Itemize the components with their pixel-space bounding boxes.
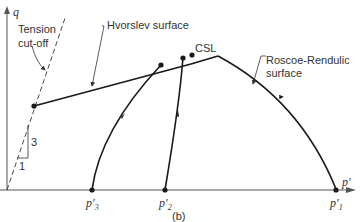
p-axis bbox=[0, 187, 356, 193]
tension-label-2: cut-off bbox=[18, 37, 49, 49]
critical-state-diagram: q p′ Tension cut-off Hvorslev surface CS… bbox=[0, 0, 361, 222]
slope-run-label: 1 bbox=[19, 160, 25, 172]
point-p3 bbox=[89, 187, 94, 192]
yield-point-p3 bbox=[158, 62, 163, 67]
slope-rise-label: 3 bbox=[31, 136, 37, 148]
tension-leader bbox=[32, 46, 45, 70]
p1-label: p′1 bbox=[329, 196, 343, 212]
hvorslev-start-point bbox=[31, 103, 36, 108]
csl-point bbox=[189, 52, 194, 57]
figure-caption: (b) bbox=[172, 210, 185, 222]
q-axis-label: q bbox=[13, 5, 19, 19]
stress-path-p3 bbox=[92, 65, 161, 190]
roscoe-label-2: surface bbox=[266, 67, 302, 79]
stress-path-p2 bbox=[165, 57, 183, 190]
p-axis-label: p′ bbox=[341, 175, 351, 189]
point-p1 bbox=[333, 187, 338, 192]
tension-label-1: Tension bbox=[18, 23, 56, 35]
point-p2 bbox=[162, 187, 167, 192]
csl-label: CSL bbox=[195, 42, 216, 54]
q-axis bbox=[4, 6, 10, 190]
p2-label: p′2 bbox=[158, 196, 172, 212]
yield-point-p2 bbox=[180, 55, 185, 60]
slope-triangle bbox=[17, 125, 28, 158]
hvorslev-surface bbox=[34, 64, 191, 106]
hvorslev-label: Hvorslev surface bbox=[107, 19, 189, 31]
roscoe-label-1: Roscoe-Rendulic bbox=[266, 54, 350, 66]
hvorslev-leader bbox=[92, 26, 104, 86]
p3-label: p′3 bbox=[85, 196, 99, 212]
